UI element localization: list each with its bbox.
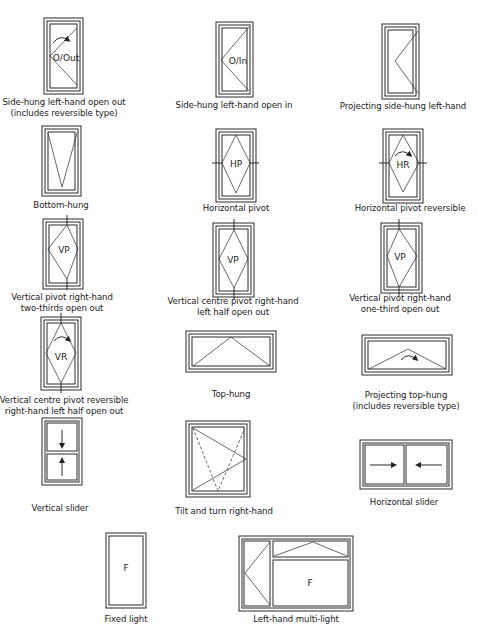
label-line: Horizontal pivot reversible [355,203,466,214]
code-vp: VP [394,252,406,262]
code-f: F [123,563,128,573]
label-line: Projecting side-hung left-hand [340,101,466,112]
label-horizontal-pivot-reversible: Horizontal pivot reversible [355,203,466,214]
rotation-arrow-icon [54,337,69,341]
label-vertical-slider: Vertical slider [32,503,89,514]
label-horizontal-pivot: Horizontal pivot [203,203,270,214]
label-vertical-pivot-rh-two-thirds: Vertical pivot right-hand two-thirds ope… [11,292,113,314]
code-o-in: O/In [229,56,247,66]
window-vertical-slider [42,418,82,485]
code-hr: HR [396,160,409,170]
window-symbols-diagram: O/Out O/In HP HR VP VP VP VR F F [0,0,478,640]
window-top-hung [186,331,276,372]
label-bottom-hung: Bottom-hung [33,200,88,211]
label-side-hung-lh-out: Side-hung left-hand open out (includes r… [2,97,125,119]
label-line: one-third open out [349,304,451,315]
code-hp: HP [230,159,243,169]
label-fixed-light: Fixed light [105,614,148,625]
code-vr: VR [55,352,67,362]
label-line: Vertical pivot right-hand [11,292,113,303]
label-line: Tilt and turn right-hand [175,506,273,517]
label-line: Left-hand multi-light [253,614,339,625]
label-line: Vertical slider [32,503,89,514]
label-line: two-thirds open out [11,303,113,314]
label-projecting-side-hung-lh: Projecting side-hung left-hand [340,101,466,112]
label-lh-multi-light: Left-hand multi-light [253,614,339,625]
label-line: Bottom-hung [33,200,88,211]
label-vertical-pivot-rh-one-third: Vertical pivot right-hand one-third open… [349,293,451,315]
window-tilt-and-turn-rh [186,421,250,497]
rotation-arrow-icon [395,152,410,156]
label-vertical-centre-pivot-reversible: Vertical centre pivot reversible right-h… [0,395,128,417]
window-lh-multi-light [239,536,353,611]
label-top-hung: Top-hung [212,389,251,400]
window-bottom-hung [42,126,81,196]
label-line: (includes reversible type) [353,401,460,412]
label-tilt-and-turn-rh: Tilt and turn right-hand [175,506,273,517]
label-vertical-centre-pivot-rh: Vertical centre pivot right-hand left ha… [167,296,298,318]
window-projecting-top-hung [362,335,452,375]
code-o-out: O/Out [53,53,80,63]
label-side-hung-lh-in: Side-hung left-hand open in [176,100,293,111]
label-line: (includes reversible type) [2,108,125,119]
label-line: Top-hung [212,389,251,400]
label-line: Vertical centre pivot right-hand [167,296,298,307]
label-line: right-hand left half open out [0,406,128,417]
code-f: F [307,578,312,588]
label-line: Horizontal slider [370,497,438,508]
label-line: Side-hung left-hand open in [176,100,293,111]
label-line: Vertical pivot right-hand [349,293,451,304]
window-projecting-side-hung-lh [382,24,419,99]
rotation-arrow-icon [401,356,416,360]
code-vp: VP [227,255,239,265]
label-horizontal-slider: Horizontal slider [370,497,438,508]
code-vp: VP [58,245,70,255]
window-horizontal-slider [360,440,452,489]
label-line: left half open out [167,307,298,318]
label-projecting-top-hung: Projecting top-hung (includes reversible… [353,390,460,412]
label-line: Side-hung left-hand open out [2,97,125,108]
label-line: Horizontal pivot [203,203,270,214]
label-line: Vertical centre pivot reversible [0,395,128,406]
label-line: Fixed light [105,614,148,625]
rotation-arrow-icon [53,38,68,43]
label-line: Projecting top-hung [353,390,460,401]
